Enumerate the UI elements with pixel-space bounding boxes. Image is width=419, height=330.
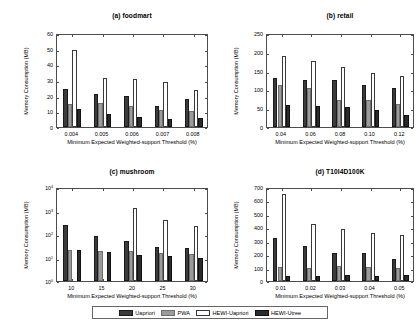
y-tick-mark-b	[411, 54, 413, 55]
bar-c-10-PWA	[68, 250, 72, 281]
x-tick-mark-d	[371, 189, 372, 191]
x-tick-mark-c	[72, 189, 73, 191]
y-tick-mark-a	[205, 66, 207, 67]
x-tick-mark-a	[133, 35, 134, 37]
x-tick-mark-d	[341, 279, 342, 281]
bar-b-0.06-HEWI-Utree	[316, 106, 320, 127]
y-tick-mark-a	[57, 113, 59, 114]
y-tick-mark-c	[205, 213, 207, 214]
y-tick-mark-b	[411, 91, 413, 92]
y-tick-label-c: 104	[30, 185, 53, 192]
bar-b-0.12-HEWI-Utree	[404, 115, 408, 127]
y-tick-mark-d	[267, 256, 269, 257]
y-tick-label-a: 30	[30, 78, 53, 84]
y-tick-mark-a	[57, 51, 59, 52]
bar-c-10-HEWI-Utree	[77, 250, 81, 281]
y-tick-mark-b	[267, 128, 269, 129]
x-tick-mark-a	[194, 125, 195, 127]
y-tick-mark-d	[411, 202, 413, 203]
y-tick-mark-b	[267, 91, 269, 92]
y-tick-mark-c	[205, 236, 207, 237]
y-tick-mark-b	[411, 35, 413, 36]
x-tick-mark-a	[72, 35, 73, 37]
legend-label: Uapriori	[135, 310, 155, 316]
y-tick-mark-a	[205, 82, 207, 83]
y-tick-mark-d	[411, 270, 413, 271]
bar-d-0.01-HEWI-Utree	[286, 276, 290, 282]
x-tick-mark-b	[311, 35, 312, 37]
y-tick-label-b: 200	[240, 50, 263, 56]
y-axis-label-b: Memory Consumption (MB)	[233, 34, 239, 128]
legend-label: HEWI-Uapriori	[212, 310, 248, 316]
y-tick-mark-d	[267, 282, 269, 283]
legend-item-hewi-utree[interactable]: HEWI-Utree	[255, 310, 302, 316]
bar-c-25-HEWI-Utree	[168, 256, 172, 281]
legend-swatch-icon	[119, 310, 133, 316]
y-tick-mark-b	[411, 110, 413, 111]
y-tick-label-b: 0	[240, 125, 263, 131]
x-tick-label-b: 0.06	[305, 131, 316, 137]
y-tick-mark-d	[267, 270, 269, 271]
bar-d-0.01-HEWI-Uapriori	[282, 194, 286, 281]
bar-a-0.008-HEWI-Utree	[198, 118, 202, 127]
x-tick-label-d: 0.05	[394, 285, 405, 291]
y-axis-label-d: Memory Consumption (MB)	[233, 188, 239, 282]
y-tick-label-b: 100	[240, 87, 263, 93]
subplot-title-d: (d) T10I4D100K	[266, 168, 414, 175]
x-tick-label-d: 0.04	[364, 285, 375, 291]
y-tick-mark-d	[267, 189, 269, 190]
y-axis-label-a: Memory Consumption (MB)	[23, 34, 29, 128]
x-tick-mark-a	[103, 125, 104, 127]
y-tick-mark-c	[57, 260, 59, 261]
figure-canvas: (a) foodmart0102030405060Memory Consumpt…	[0, 0, 419, 330]
x-tick-label-b: 0.12	[394, 131, 405, 137]
legend-item-pwa[interactable]: PWA	[161, 310, 190, 316]
y-tick-label-a: 10	[30, 109, 53, 115]
x-tick-mark-d	[400, 279, 401, 281]
x-tick-label-d: 0.02	[305, 285, 316, 291]
x-tick-mark-d	[282, 189, 283, 191]
x-axis-label-b: Minimum Expected Weighted-support Thresh…	[252, 139, 419, 145]
x-tick-label-d: 0.03	[335, 285, 346, 291]
x-tick-mark-d	[341, 189, 342, 191]
y-axis-label-c: Memory Consumption (MB)	[23, 188, 29, 282]
x-tick-label-c: 30	[190, 285, 196, 291]
x-tick-mark-b	[400, 125, 401, 127]
plot-area-c	[56, 188, 208, 282]
legend-item-hewi-uapriori[interactable]: HEWI-Uapriori	[196, 310, 249, 316]
y-tick-label-c: 102	[30, 232, 53, 239]
bar-d-0.04-HEWI-Uapriori	[371, 233, 375, 281]
x-tick-label-b: 0.08	[335, 131, 346, 137]
plot-area-a	[56, 34, 208, 128]
legend-swatch-icon	[196, 310, 210, 316]
y-tick-mark-c	[57, 189, 59, 190]
x-tick-mark-c	[103, 189, 104, 191]
subplot-title-c: (c) mushroom	[56, 168, 208, 175]
y-tick-mark-d	[411, 282, 413, 283]
y-tick-mark-d	[267, 229, 269, 230]
y-tick-label-a: 60	[30, 31, 53, 37]
x-tick-label-c: 25	[159, 285, 165, 291]
x-tick-label-a: 0.004	[64, 131, 78, 137]
legend-swatch-icon	[255, 310, 269, 316]
y-tick-mark-c	[57, 282, 59, 283]
bar-a-0.006-HEWI-Utree	[137, 117, 141, 127]
x-tick-mark-d	[371, 279, 372, 281]
y-tick-mark-b	[267, 110, 269, 111]
x-tick-label-c: 15	[99, 285, 105, 291]
y-tick-mark-c	[57, 236, 59, 237]
x-tick-mark-d	[311, 279, 312, 281]
y-tick-label-c: 100	[30, 279, 53, 286]
x-tick-mark-c	[72, 279, 73, 281]
x-tick-mark-b	[282, 125, 283, 127]
x-tick-label-c: 10	[68, 285, 74, 291]
x-tick-label-a: 0.005	[95, 131, 109, 137]
x-tick-mark-a	[103, 35, 104, 37]
y-tick-label-c: 101	[30, 255, 53, 262]
bar-a-0.004-HEWI-Utree	[77, 109, 81, 127]
x-axis-label-d: Minimum Expected Weighted-support Thresh…	[252, 293, 419, 299]
y-tick-mark-d	[267, 243, 269, 244]
legend-item-uapriori[interactable]: Uapriori	[119, 310, 155, 316]
y-tick-mark-c	[205, 282, 207, 283]
x-tick-label-a: 0.008	[186, 131, 200, 137]
